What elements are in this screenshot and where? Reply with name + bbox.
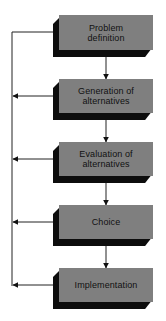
box-face: Evaluation of alternatives xyxy=(59,142,153,176)
step-label-line1: Problem xyxy=(87,23,124,33)
step-label-line2: alternatives xyxy=(78,96,134,106)
step-label-line1: Implementation xyxy=(75,280,138,290)
step-box-generation-of-alternatives: Generation of alternatives xyxy=(53,79,153,120)
decision-process-diagram: Problem definition Generation of alterna… xyxy=(0,0,166,321)
box-face: Choice xyxy=(59,205,153,239)
box-face: Implementation xyxy=(59,268,153,302)
step-box-choice: Choice xyxy=(53,205,153,246)
step-box-problem-definition: Problem definition xyxy=(53,15,153,57)
step-label-line1: Generation of xyxy=(78,86,134,96)
step-box-evaluation-of-alternatives: Evaluation of alternatives xyxy=(53,142,153,183)
step-label-line2: definition xyxy=(87,33,124,43)
step-label-line1: Evaluation of xyxy=(79,149,132,159)
step-label-line1: Choice xyxy=(92,217,121,227)
step-box-implementation: Implementation xyxy=(53,268,153,309)
box-face: Generation of alternatives xyxy=(59,79,153,113)
step-label-line2: alternatives xyxy=(79,159,132,169)
box-face: Problem definition xyxy=(59,15,153,50)
